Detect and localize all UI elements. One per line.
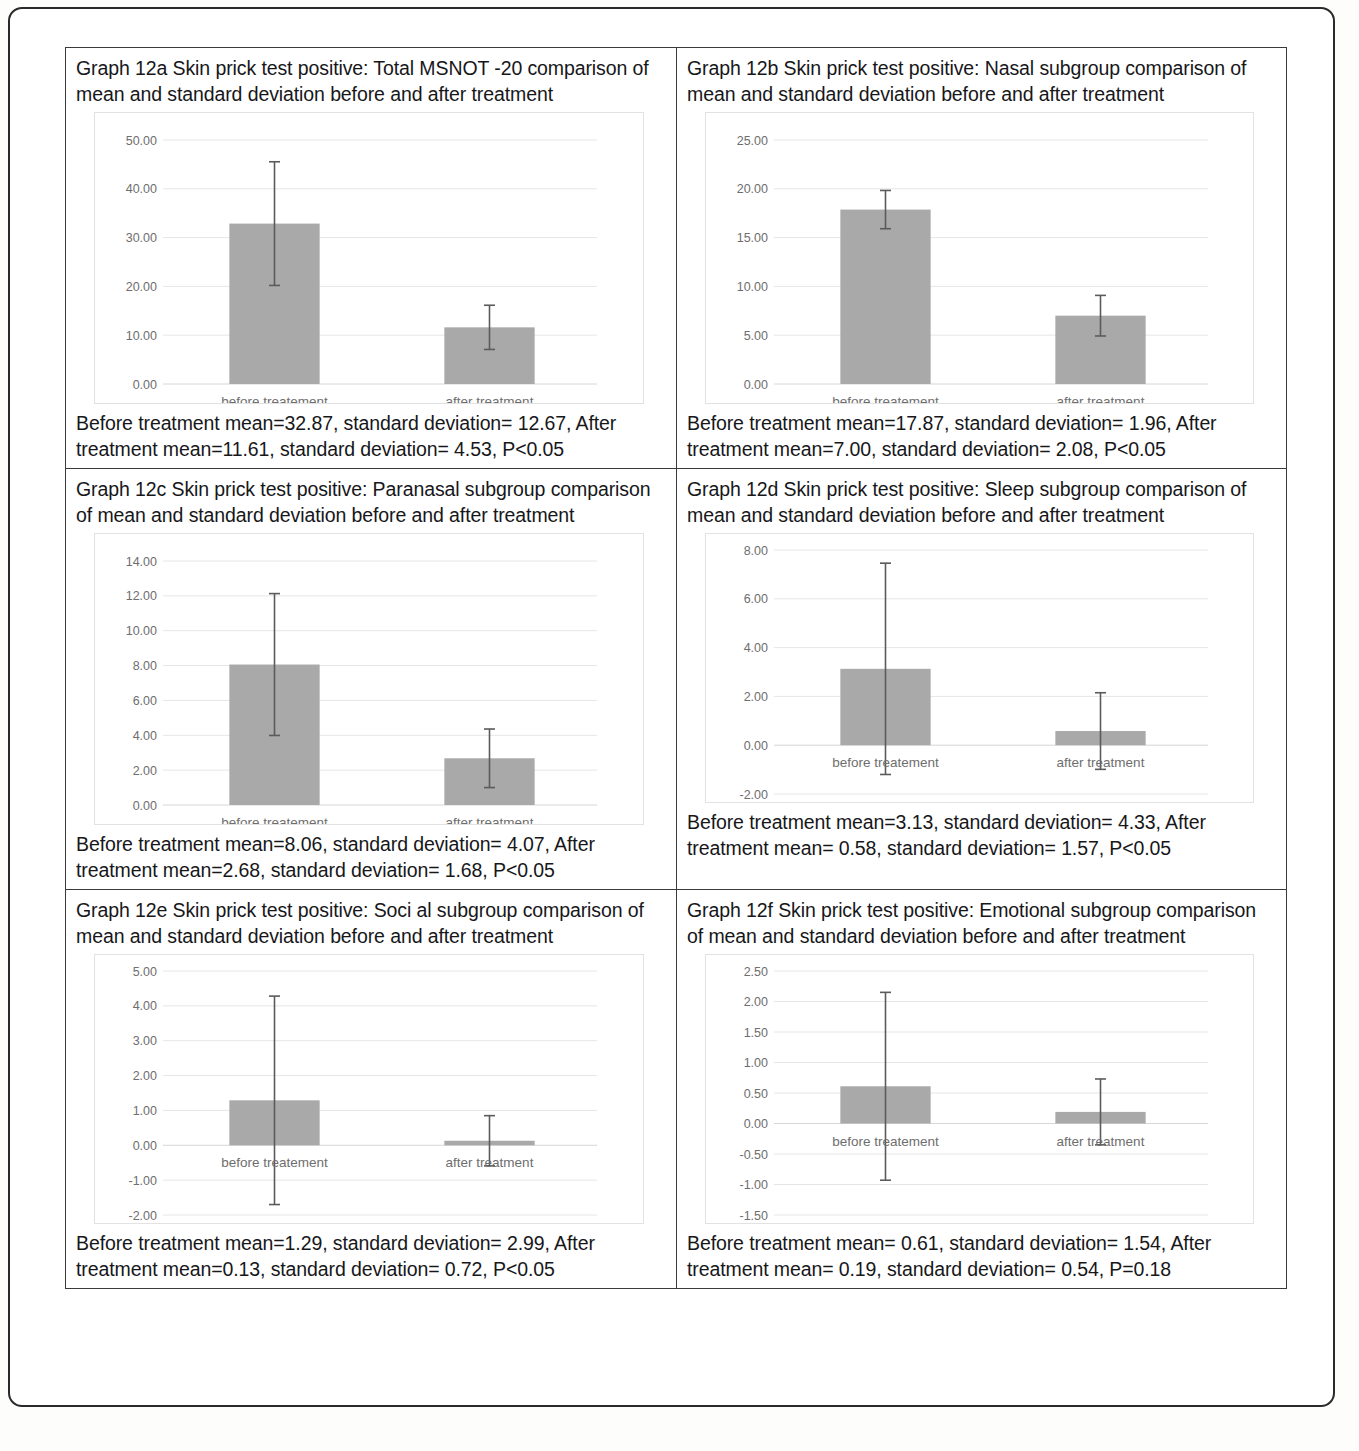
- figure-grid-table: Graph 12a Skin prick test positive: Tota…: [65, 47, 1287, 1289]
- svg-text:after treatment: after treatment: [446, 815, 534, 824]
- panel-title: Graph 12f Skin prick test positive: Emot…: [687, 898, 1276, 949]
- chart-12c: 0.002.004.006.008.0010.0012.0014.00befor…: [94, 533, 644, 825]
- svg-text:after treatment: after treatment: [1057, 755, 1145, 770]
- chart-12b: 0.005.0010.0015.0020.0025.00before treat…: [705, 112, 1254, 404]
- panel-12c: Graph 12c Skin prick test positive: Para…: [66, 469, 676, 889]
- panel-title: Graph 12e Skin prick test positive: Soci…: [76, 898, 666, 949]
- svg-text:2.00: 2.00: [133, 1069, 157, 1083]
- panel-12a: Graph 12a Skin prick test positive: Tota…: [66, 48, 676, 468]
- svg-text:4.00: 4.00: [133, 729, 157, 743]
- svg-text:2.00: 2.00: [133, 764, 157, 778]
- svg-text:8.00: 8.00: [744, 544, 768, 558]
- svg-text:20.00: 20.00: [126, 280, 157, 294]
- svg-text:0.00: 0.00: [744, 1117, 768, 1131]
- panel-title: Graph 12c Skin prick test positive: Para…: [76, 477, 666, 528]
- svg-text:0.50: 0.50: [744, 1087, 768, 1101]
- chart-12d: -2.000.002.004.006.008.00before treateme…: [705, 533, 1254, 803]
- svg-text:10.00: 10.00: [126, 624, 157, 638]
- svg-text:before treatement: before treatement: [832, 394, 939, 403]
- svg-text:-1.00: -1.00: [740, 1178, 769, 1192]
- chart-12f: -1.50-1.00-0.500.000.501.001.502.002.50b…: [705, 954, 1254, 1224]
- svg-text:after treatment: after treatment: [1057, 1134, 1145, 1149]
- figure-row-1: Graph 12a Skin prick test positive: Tota…: [66, 48, 1286, 468]
- svg-text:0.00: 0.00: [133, 1139, 157, 1153]
- svg-text:2.00: 2.00: [744, 995, 768, 1009]
- svg-text:40.00: 40.00: [126, 182, 157, 196]
- panel-caption: Before treatment mean=17.87, standard de…: [687, 411, 1276, 462]
- svg-text:before treatement: before treatement: [221, 394, 328, 403]
- chart-12a: 0.0010.0020.0030.0040.0050.00before trea…: [94, 112, 644, 404]
- panel-caption: Before treatment mean=3.13, standard dev…: [687, 810, 1276, 861]
- svg-text:14.00: 14.00: [126, 555, 157, 569]
- svg-text:-2.00: -2.00: [740, 788, 769, 802]
- svg-text:0.00: 0.00: [744, 378, 768, 392]
- panel-12e: Graph 12e Skin prick test positive: Soci…: [66, 890, 676, 1288]
- svg-text:2.50: 2.50: [744, 965, 768, 979]
- svg-text:50.00: 50.00: [126, 134, 157, 148]
- svg-text:8.00: 8.00: [133, 659, 157, 673]
- svg-text:-1.00: -1.00: [129, 1174, 158, 1188]
- svg-text:0.00: 0.00: [133, 799, 157, 813]
- svg-text:0.00: 0.00: [744, 739, 768, 753]
- svg-text:before treatement: before treatement: [832, 1134, 939, 1149]
- panel-12d: Graph 12d Skin prick test positive: Slee…: [676, 469, 1286, 889]
- panel-title: Graph 12d Skin prick test positive: Slee…: [687, 477, 1276, 528]
- svg-text:0.00: 0.00: [133, 378, 157, 392]
- svg-text:4.00: 4.00: [133, 999, 157, 1013]
- page-outer-frame: Graph 12a Skin prick test positive: Tota…: [8, 7, 1335, 1407]
- svg-text:10.00: 10.00: [737, 280, 768, 294]
- svg-text:after treatment: after treatment: [446, 1155, 534, 1170]
- svg-text:before treatement: before treatement: [832, 755, 939, 770]
- panel-title: Graph 12a Skin prick test positive: Tota…: [76, 56, 666, 107]
- panel-title: Graph 12b Skin prick test positive: Nasa…: [687, 56, 1276, 107]
- svg-text:5.00: 5.00: [744, 329, 768, 343]
- svg-text:15.00: 15.00: [737, 231, 768, 245]
- svg-text:after treatment: after treatment: [446, 394, 534, 403]
- svg-text:before treatement: before treatement: [221, 815, 328, 824]
- chart-12e: -2.00-1.000.001.002.003.004.005.00before…: [94, 954, 644, 1224]
- svg-text:20.00: 20.00: [737, 182, 768, 196]
- svg-text:6.00: 6.00: [744, 592, 768, 606]
- panel-12f: Graph 12f Skin prick test positive: Emot…: [676, 890, 1286, 1288]
- svg-text:-0.50: -0.50: [740, 1148, 769, 1162]
- panel-caption: Before treatment mean=32.87, standard de…: [76, 411, 666, 462]
- svg-text:3.00: 3.00: [133, 1034, 157, 1048]
- svg-text:30.00: 30.00: [126, 231, 157, 245]
- svg-text:25.00: 25.00: [737, 134, 768, 148]
- svg-text:4.00: 4.00: [744, 641, 768, 655]
- svg-text:1.00: 1.00: [133, 1104, 157, 1118]
- figure-row-2: Graph 12c Skin prick test positive: Para…: [66, 468, 1286, 889]
- panel-caption: Before treatment mean=8.06, standard dev…: [76, 832, 666, 883]
- svg-text:-1.50: -1.50: [740, 1209, 769, 1223]
- svg-text:1.50: 1.50: [744, 1026, 768, 1040]
- panel-caption: Before treatment mean= 0.61, standard de…: [687, 1231, 1276, 1282]
- svg-text:after treatment: after treatment: [1057, 394, 1145, 403]
- svg-text:12.00: 12.00: [126, 589, 157, 603]
- svg-text:6.00: 6.00: [133, 694, 157, 708]
- panel-12b: Graph 12b Skin prick test positive: Nasa…: [676, 48, 1286, 468]
- panel-caption: Before treatment mean=1.29, standard dev…: [76, 1231, 666, 1282]
- svg-text:-2.00: -2.00: [129, 1209, 158, 1223]
- svg-text:10.00: 10.00: [126, 329, 157, 343]
- svg-text:before treatement: before treatement: [221, 1155, 328, 1170]
- svg-text:1.00: 1.00: [744, 1056, 768, 1070]
- svg-text:5.00: 5.00: [133, 965, 157, 979]
- svg-text:2.00: 2.00: [744, 690, 768, 704]
- figure-row-3: Graph 12e Skin prick test positive: Soci…: [66, 889, 1286, 1288]
